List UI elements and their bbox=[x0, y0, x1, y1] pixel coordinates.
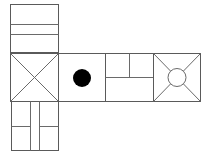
face-middle-4 bbox=[154, 54, 201, 102]
face-top bbox=[11, 5, 59, 53]
face-middle-3 bbox=[106, 54, 154, 102]
face-middle-1 bbox=[11, 54, 59, 102]
face-middle-2 bbox=[59, 54, 106, 102]
cube-net-diagram bbox=[0, 0, 208, 158]
circle-icon bbox=[168, 69, 186, 87]
face-bottom bbox=[12, 102, 59, 151]
black-dot-icon bbox=[73, 69, 91, 87]
